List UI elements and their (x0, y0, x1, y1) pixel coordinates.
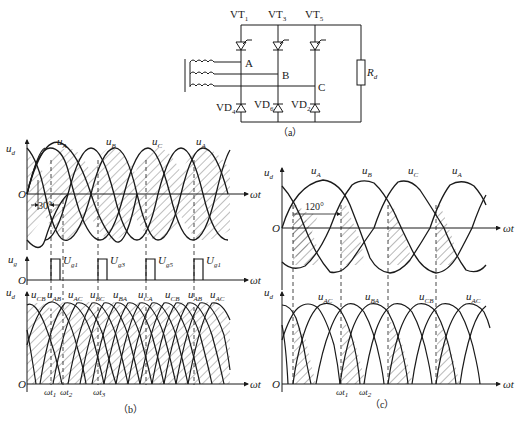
vd2-label: VD2 (291, 98, 311, 113)
b-bottom-x-label: ωt (250, 378, 262, 390)
c-line-uac-2: uAC (466, 290, 481, 305)
vt5-label: VT5 (305, 8, 324, 23)
node-c-label: C (318, 81, 325, 93)
c-phase-ua-2: uA (452, 164, 463, 179)
angle-120-label: 120° (305, 201, 324, 212)
b-pulse-plot: ug O ωt Ug1 Ug3 Ug5 Ug1 (8, 253, 262, 286)
diode-vd2 (310, 104, 320, 112)
b-wt3: ωt3 (93, 387, 106, 399)
c-top-origin: O (272, 222, 280, 234)
node-a-label: A (245, 57, 253, 69)
caption-a: （a） (278, 127, 302, 138)
c-phase-uc: uC (408, 164, 419, 179)
load-label: Rd (366, 66, 378, 81)
b-top-ud-label: ud (6, 142, 16, 157)
c-bottom-ud-label: ud (264, 286, 274, 301)
pulse-ug5 (146, 259, 155, 280)
c-line-ucb: uCB (419, 290, 434, 305)
b-wt2: ωt2 (60, 387, 73, 399)
c-bottom-plot: ud O ωt uAC uBA uCB uAC ωt1 ωt2 （c） (264, 286, 515, 410)
caption-c: （c） (370, 399, 394, 410)
thyristor-vt1 (236, 40, 252, 50)
pulse-ug3 (98, 259, 107, 280)
rectifier-diagram: VT1 VT3 VT5 VD4 VD6 VD2 A B C Rd （a） (0, 0, 526, 422)
diode-vd6 (273, 104, 283, 112)
vt3-label: VT3 (268, 8, 287, 23)
b-pulse-origin: O (18, 274, 26, 286)
circuit-labels: VT1 VT3 VT5 VD4 VD6 VD2 A B C Rd （a） (216, 8, 378, 138)
b-ug-label: ug (8, 253, 18, 268)
vd4-label: VD4 (216, 101, 236, 116)
c-line-uac-1: uAC (318, 290, 333, 305)
b-pulse-x-label: ωt (250, 274, 262, 286)
load-resistor (357, 60, 365, 85)
b-top-origin: O (18, 188, 26, 200)
ug3-label: Ug3 (110, 254, 125, 269)
b-wt1: ωt1 (44, 387, 56, 399)
c-top-ud-label: ud (264, 166, 274, 181)
c-top-x-label: ωt (503, 222, 515, 234)
ug1-label-2: Ug1 (206, 254, 221, 269)
caption-b: （b） (118, 404, 143, 415)
panel-c: 120° ud O ωt uA uB uC uA (264, 164, 515, 410)
node-b-label: B (282, 69, 289, 81)
ug5-label: Ug5 (158, 254, 173, 269)
c-bottom-origin: O (272, 378, 280, 390)
thyristor-vt5 (310, 40, 326, 50)
c-phase-ua-1: uA (311, 164, 322, 179)
pulse-ug1 (51, 259, 60, 280)
b-top-x-label: ωt (250, 188, 262, 200)
c-wt1: ωt1 (336, 387, 348, 399)
vt1-label: VT1 (230, 8, 249, 23)
vd6-label: VD6 (254, 98, 274, 113)
pulse-ug1-2 (194, 259, 203, 280)
diode-vd4 (236, 104, 246, 112)
b-bottom-ud-label: ud (6, 286, 16, 301)
b-bottom-plot: ud O ωt uCB uAB uAC uBC uBA uCA uCB uAB … (6, 286, 262, 415)
circuit-a (185, 25, 365, 122)
thyristor-vt3 (273, 40, 289, 50)
c-line-uba: uBA (365, 290, 380, 305)
c-bottom-x-label: ωt (503, 378, 515, 390)
angle-30-label: 30° (38, 200, 52, 211)
c-wt2: ωt2 (359, 387, 372, 399)
c-phase-ub: uB (362, 164, 373, 179)
b-bottom-origin: O (18, 378, 26, 390)
panel-b: 30° ud O ωt uA uB uC uA ug O ωt Ug1 Ug3 (6, 135, 262, 415)
ug1-label: Ug1 (63, 254, 78, 269)
